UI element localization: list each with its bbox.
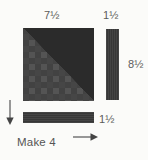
quilt-cutting-diagram: 7½ 1½ 8½ 1½ Make 4	[0, 0, 148, 160]
corner-triangle-shape	[23, 28, 94, 101]
right-arrow-icon	[73, 131, 99, 143]
square-width-label: 7½	[44, 10, 60, 21]
strip-width-label: 1½	[103, 10, 119, 21]
vertical-strip-piece	[106, 29, 119, 100]
down-arrow-icon	[4, 100, 16, 126]
strip-length-label: 8½	[128, 59, 144, 70]
make-instruction-label: Make 4	[17, 137, 56, 148]
bar-width-label: 1½	[99, 114, 115, 125]
pieced-square-block	[23, 28, 94, 101]
horizontal-bar-piece	[23, 112, 94, 123]
